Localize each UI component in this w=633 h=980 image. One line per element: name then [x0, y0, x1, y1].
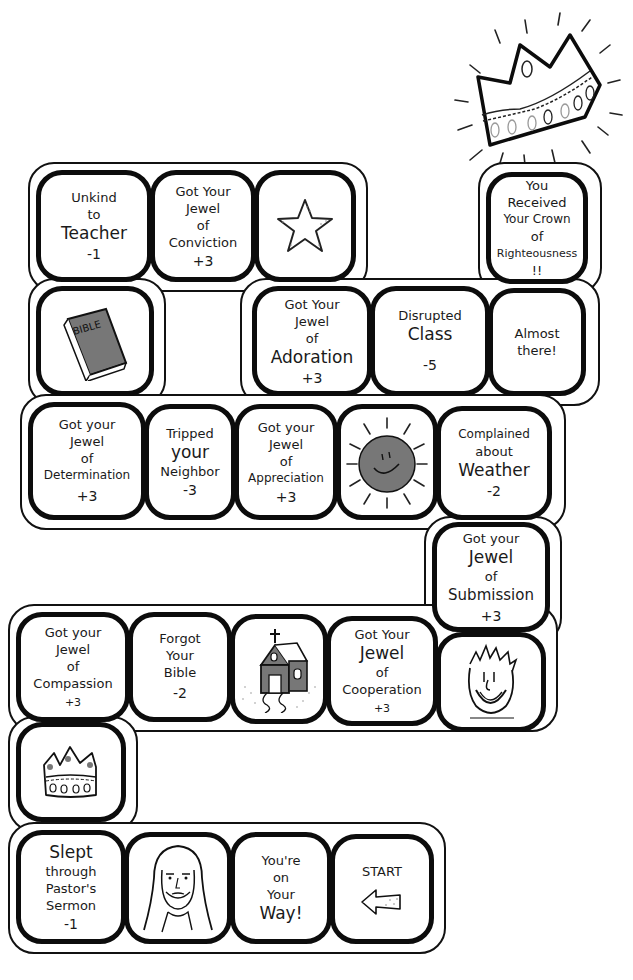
square-line: of	[280, 453, 293, 470]
square-line: Determination	[44, 467, 130, 484]
crown-icon	[40, 743, 102, 801]
jesus-portrait-icon	[138, 840, 218, 936]
square-line: there!	[517, 342, 557, 359]
square-line: Jewel	[269, 436, 303, 453]
square-line: Forgot	[159, 630, 200, 647]
square-jewel-cooperation[interactable]: Got Your Jewel of Cooperation +3	[326, 616, 438, 726]
square-points: -2	[487, 483, 501, 500]
square-line: of	[531, 228, 544, 245]
square-line: of	[197, 217, 210, 234]
square-disrupted-class[interactable]: Disrupted Class -5	[370, 286, 490, 396]
square-smiling-face[interactable]	[436, 632, 546, 732]
square-points: +3	[481, 608, 502, 625]
square-line: Jewel	[469, 547, 514, 568]
square-line: Complained	[458, 426, 530, 443]
square-jewel-conviction[interactable]: Got Your Jewel of Conviction +3	[150, 170, 256, 282]
square-line: You're	[261, 852, 300, 869]
square-jewel-submission[interactable]: Got your Jewel of Submission +3	[432, 522, 550, 632]
smiling-face-icon	[456, 642, 526, 722]
square-complained-weather[interactable]: Complained about Weather -2	[436, 406, 552, 520]
square-line: Your	[166, 647, 194, 664]
square-points: +3	[77, 486, 98, 507]
square-jewel-determination[interactable]: Got your Jewel of Determination +3	[28, 402, 146, 520]
square-points: +3	[374, 700, 390, 717]
square-line: of	[67, 658, 80, 675]
square-line: Teacher	[61, 223, 127, 244]
square-line: Got your	[45, 624, 102, 641]
square-jewel-appreciation[interactable]: Got your Jewel of Appreciation +3	[234, 404, 338, 520]
square-line: Got Your	[354, 626, 409, 643]
square-jewel-compassion[interactable]: Got your Jewel of Compassion +3	[16, 612, 130, 722]
square-line: Bible	[164, 664, 196, 681]
square-line: Unkind	[71, 189, 116, 206]
square-points: +3	[193, 253, 214, 270]
square-line: !!	[532, 262, 542, 279]
square-line: Tripped	[166, 425, 214, 442]
square-line: Got your	[463, 530, 520, 547]
square-bible[interactable]: BIBLE	[36, 286, 154, 396]
square-line: Way!	[259, 903, 302, 924]
square-line: Got your	[258, 419, 315, 436]
square-small-crown[interactable]	[16, 722, 126, 822]
square-line: Weather	[458, 460, 530, 481]
square-start[interactable]: START	[330, 834, 434, 944]
square-points: -2	[173, 683, 187, 704]
square-line: Jewel	[70, 433, 104, 450]
square-line: Conviction	[169, 234, 238, 251]
bible-book-icon: BIBLE	[60, 301, 130, 381]
square-line: Slept	[49, 842, 92, 863]
square-line: Submission	[448, 585, 534, 606]
square-church[interactable]	[230, 614, 328, 724]
square-sun[interactable]	[336, 404, 438, 520]
square-line: Neighbor	[160, 463, 219, 480]
square-line: Jewel	[295, 313, 329, 330]
square-jewel-adoration[interactable]: Got Your Jewel of Adoration +3	[252, 286, 372, 396]
square-line: Jewel	[360, 643, 405, 664]
square-line: of	[376, 664, 389, 681]
square-points: +3	[302, 370, 323, 387]
start-label: START	[362, 863, 402, 880]
square-line: your	[171, 442, 209, 463]
square-unkind-to-teacher[interactable]: Unkind to Teacher -1	[36, 170, 152, 282]
square-line: Got your	[59, 416, 116, 433]
square-line: Pastor's	[46, 880, 97, 897]
square-line: Your Crown	[503, 211, 570, 228]
square-line: You	[526, 177, 548, 194]
square-line: Appreciation	[248, 470, 324, 487]
square-jesus[interactable]	[124, 832, 232, 944]
square-line: on	[273, 869, 289, 886]
square-line: Disrupted	[398, 307, 462, 324]
square-line: about	[475, 443, 513, 460]
smiling-sun-icon	[344, 414, 430, 510]
square-line: Got Your	[284, 296, 339, 313]
square-forgot-bible[interactable]: Forgot Your Bible -2	[128, 612, 232, 722]
square-line: Almost	[515, 325, 560, 342]
square-line: of	[485, 568, 498, 585]
square-almost-there[interactable]: Almost there!	[488, 288, 586, 396]
square-line: Cooperation	[342, 681, 421, 698]
square-points: -5	[423, 355, 437, 376]
square-crown-of-righteousness[interactable]: You Received Your Crown of Righteousness…	[486, 172, 588, 284]
church-icon	[237, 625, 321, 713]
square-line: of	[81, 450, 94, 467]
square-points: +3	[65, 694, 81, 711]
square-star[interactable]	[254, 170, 356, 282]
square-line: Sermon	[46, 897, 96, 914]
square-points: -1	[64, 916, 78, 933]
square-line: Adoration	[271, 347, 354, 368]
square-line: Received	[507, 194, 566, 211]
square-line: Your	[267, 886, 295, 903]
square-line: Got Your	[175, 183, 230, 200]
square-points: -3	[183, 482, 197, 499]
square-slept-through-sermon[interactable]: Slept through Pastor's Sermon -1	[16, 830, 126, 944]
square-line: Compassion	[33, 675, 112, 692]
square-line: of	[306, 330, 319, 347]
crown-with-rays-icon	[440, 5, 630, 165]
square-points: -1	[87, 246, 101, 263]
square-tripped-neighbor[interactable]: Tripped your Neighbor -3	[144, 404, 236, 520]
square-line: Jewel	[186, 200, 220, 217]
square-points: +3	[276, 489, 297, 506]
square-line: through	[45, 863, 96, 880]
square-line: to	[87, 206, 100, 223]
square-youre-on-your-way[interactable]: You're on Your Way!	[230, 832, 332, 944]
